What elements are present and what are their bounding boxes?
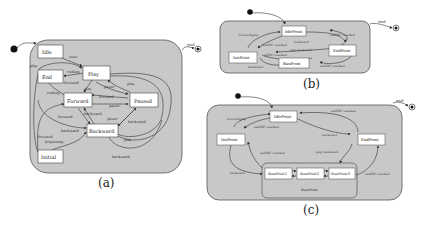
svg-text:InitPoint: InitPoint <box>233 55 250 60</box>
edge-label: backward <box>61 129 80 133</box>
end-label-a: end <box>187 42 195 47</box>
edge-label: backward <box>294 40 309 44</box>
svg-text:InitPoint: InitPoint <box>221 137 238 142</box>
svg-text:Forward: Forward <box>67 98 89 104</box>
edge-label: play <box>30 64 39 68</box>
svg-text:Initial: Initial <box>41 154 56 160</box>
state-forward: Forward <box>64 93 92 107</box>
svg-text:Backward: Backward <box>89 128 115 134</box>
edge-label: ending <box>67 70 80 74</box>
composite-runpoint-label: RunPoint <box>301 188 318 192</box>
edge-label: beginning <box>45 140 64 144</box>
svg-text:RunPoint1: RunPoint1 <box>268 172 287 176</box>
edge-label: pause <box>104 85 115 89</box>
state-initpoint-b: InitPoint <box>229 52 257 63</box>
diagram-c: end IdlePoint InitPoint EndPo <box>207 93 415 200</box>
edge-label: endOfC reached <box>330 33 355 37</box>
edge-label: play backward <box>290 48 312 52</box>
state-paused: Paused <box>130 93 158 107</box>
edge-label: play <box>124 138 133 142</box>
diagram-b: end IdlePoint InitPoint EndPoint RunPoin… <box>220 9 399 73</box>
edge-label: backward <box>322 133 337 137</box>
state-initial: Initial <box>38 150 63 163</box>
svg-text:Paused: Paused <box>134 98 153 104</box>
edge-label: forward/play <box>227 117 247 121</box>
caption-b: (b) <box>303 77 320 91</box>
end-label-c: end <box>396 98 404 103</box>
svg-text:RunPoint2: RunPoint2 <box>300 172 319 176</box>
svg-text:IdlePoint: IdlePoint <box>274 114 292 119</box>
edge-label: backward <box>230 171 245 175</box>
svg-text:End: End <box>42 74 53 80</box>
edge-label: endOfC reached <box>254 125 279 129</box>
svg-text:RunPoint3: RunPoint3 <box>331 172 351 176</box>
state-runpoint-b: RunPoint <box>279 58 309 68</box>
edge-label: forward <box>99 95 114 99</box>
figure: end Idle <box>0 0 423 230</box>
state-idlepoint-c: IdlePoint <box>270 111 297 122</box>
initial-pseudostate-icon <box>11 46 18 53</box>
edge-label: backward <box>248 65 263 69</box>
state-runpoint3: RunPoint3 <box>329 168 355 179</box>
edge-label: forward/play <box>239 33 259 37</box>
svg-text:Idle: Idle <box>42 49 52 55</box>
diagram-a: end Idle <box>11 40 202 173</box>
edge-label: endOfC reached <box>365 172 390 176</box>
edge-label: endOfC reached <box>262 53 287 57</box>
state-runpoint1: RunPoint1 <box>265 168 292 179</box>
edge-label: forward <box>58 115 73 119</box>
edge-label: pause <box>109 104 120 108</box>
edge-label: play backward <box>316 150 338 154</box>
svg-text:Play: Play <box>88 71 99 78</box>
figure-canvas: end Idle <box>0 0 423 230</box>
svg-text:RunPoint: RunPoint <box>283 61 301 66</box>
state-initpoint-c: InitPoint <box>217 134 245 145</box>
edge-label: endOfC reached <box>320 64 345 68</box>
initial-pseudostate-icon <box>235 93 241 99</box>
edge-label: backward <box>84 112 103 116</box>
state-backward: Backward <box>87 124 118 137</box>
initial-pseudostate-icon <box>247 9 253 15</box>
edge-label: ending <box>47 91 60 95</box>
edge-label: backward <box>128 120 147 124</box>
caption-a: (a) <box>98 176 115 190</box>
edge-label: endOfC reached <box>260 151 285 155</box>
edge-label: start <box>69 55 78 59</box>
svg-text:EndPoint: EndPoint <box>333 48 351 53</box>
state-runpoint2: RunPoint2 <box>297 168 324 179</box>
edge-label: pause <box>107 117 118 121</box>
end-label-b: end <box>378 19 386 24</box>
caption-c: (c) <box>303 203 319 217</box>
state-endpoint-c: EndPoint <box>358 134 385 145</box>
state-play: Play <box>83 66 110 80</box>
svg-text:IdlePoint: IdlePoint <box>285 29 303 34</box>
state-endpoint-b: EndPoint <box>329 45 356 56</box>
state-idle: Idle <box>38 45 63 58</box>
edge-label: endOfC reached <box>331 109 356 113</box>
edge-label: forward <box>38 135 53 139</box>
edge-label: forward <box>64 81 79 85</box>
state-end: End <box>38 70 63 83</box>
edge-label: play <box>127 82 136 86</box>
edge-label: play <box>84 87 93 91</box>
edge-label: backward <box>112 155 131 159</box>
edge-label: endOfC reached <box>262 43 287 47</box>
svg-text:EndPoint: EndPoint <box>361 137 379 142</box>
state-idlepoint-b: IdlePoint <box>282 26 306 36</box>
